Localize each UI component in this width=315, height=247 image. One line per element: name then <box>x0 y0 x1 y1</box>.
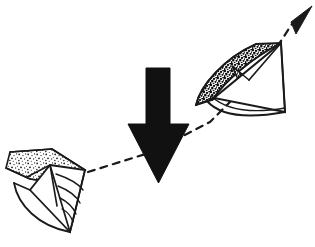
figure-illustration <box>0 0 315 247</box>
figure-canvas: Line drawing: two stippled fan-shaped ob… <box>0 0 315 247</box>
